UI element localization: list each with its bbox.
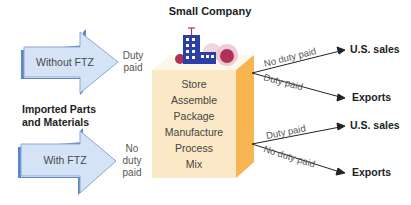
company-title: Small Company [160, 5, 260, 18]
activity-item: Assemble [152, 92, 236, 108]
upper-dest-us-sales: U.S. sales [350, 43, 400, 55]
heading-line: Imported Parts [22, 103, 132, 116]
imported-parts-heading: Imported Parts and Materials [22, 103, 132, 129]
activity-item: Process [152, 140, 236, 156]
lower-dest-exports: Exports [352, 166, 391, 178]
activity-item: Mix [152, 156, 236, 172]
activity-item: Store [152, 76, 236, 92]
status-line: duty [117, 155, 147, 167]
with-ftz-duty-status: No duty paid [117, 143, 147, 179]
lower-dest-us-sales: U.S. sales [350, 119, 400, 131]
without-ftz-label: Without FTZ [30, 56, 100, 68]
upper-dest-exports: Exports [352, 91, 391, 103]
status-line: paid [118, 62, 148, 74]
without-ftz-duty-status: Duty paid [118, 50, 148, 74]
activity-list: Store Assemble Package Manufacture Proce… [152, 76, 236, 172]
activity-item: Package [152, 108, 236, 124]
heading-line: and Materials [22, 116, 132, 129]
with-ftz-label: With FTZ [30, 154, 100, 166]
status-line: No [117, 143, 147, 155]
building-icon [175, 28, 238, 66]
activity-item: Manufacture [152, 124, 236, 140]
status-line: paid [117, 167, 147, 179]
status-line: Duty [118, 50, 148, 62]
